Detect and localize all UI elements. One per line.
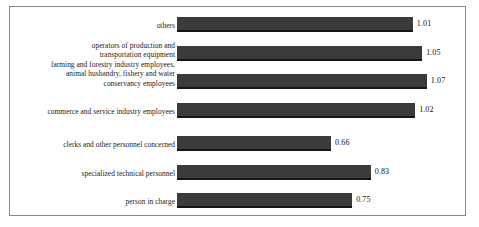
- bar-value-label: 1.05: [426, 48, 440, 57]
- category-label: clerks and other personnel concerned: [0, 140, 175, 149]
- bar: [177, 46, 422, 61]
- bar-row: commerce and service industry employees1…: [10, 103, 465, 119]
- bar: [177, 193, 352, 208]
- bar-row: specialized technical personnel0.83: [10, 165, 465, 181]
- bar-value-label: 0.66: [335, 138, 349, 147]
- bar: [177, 103, 415, 118]
- bar-value-label: 1.01: [417, 19, 431, 28]
- bar-row: clerks and other personnel concerned0.66: [10, 136, 465, 152]
- bar-value-label: 1.07: [431, 76, 445, 85]
- bar-value-label: 0.75: [356, 195, 370, 204]
- plot-area: others1.01operators of production and tr…: [10, 7, 465, 215]
- category-label: specialized technical personnel: [0, 169, 175, 178]
- category-label: person in charge: [0, 197, 175, 206]
- category-label: farming and forestry industry employees,…: [0, 60, 175, 87]
- bar-row: operators of production and transportati…: [10, 46, 465, 62]
- bar-row: farming and forestry industry employees,…: [10, 74, 465, 90]
- bar: [177, 74, 427, 89]
- category-label: others: [0, 21, 175, 30]
- bar-value-label: 0.83: [375, 167, 389, 176]
- bar-row: person in charge0.75: [10, 193, 465, 209]
- chart-frame: others1.01operators of production and tr…: [9, 6, 466, 216]
- bar-row: others1.01: [10, 17, 465, 33]
- bar: [177, 136, 331, 151]
- category-label: operators of production and transportati…: [0, 41, 175, 59]
- bar: [177, 17, 413, 32]
- bar-value-label: 1.02: [419, 105, 433, 114]
- bar: [177, 165, 371, 180]
- category-label: commerce and service industry employees: [0, 107, 175, 116]
